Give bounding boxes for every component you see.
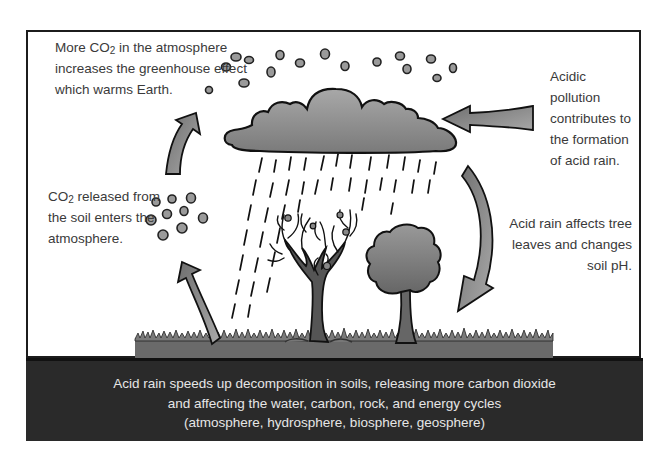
summary-line-1: Acid rain speeds up decomposition in soi… — [26, 374, 643, 394]
caption-tree-effects: Acid rain affects tree leaves and change… — [508, 213, 632, 276]
pollution-arrow-icon — [443, 106, 533, 132]
summary-line-3: (atmosphere, hydrosphere, biosphere, geo… — [26, 413, 643, 433]
caption-acidic-pollution: Acidic pollution contributes to the form… — [550, 66, 640, 171]
cloud-icon — [225, 89, 456, 153]
arrow-down-rain-icon — [458, 166, 493, 311]
arrow-up-atmosphere-icon — [166, 113, 200, 174]
summary-line-2: and affecting the water, carbon, rock, a… — [26, 394, 643, 414]
caption-text: More CO — [55, 40, 110, 55]
caption-greenhouse-effect: More CO2 in the atmosphere increases the… — [55, 37, 255, 100]
caption-co2-release: CO2 released from the soil enters the at… — [48, 186, 168, 249]
caption-text: CO — [48, 189, 68, 204]
summary-panel: Acid rain speeds up decomposition in soi… — [26, 358, 643, 441]
bare-tree-icon — [268, 210, 357, 342]
tree-icon — [367, 225, 441, 343]
